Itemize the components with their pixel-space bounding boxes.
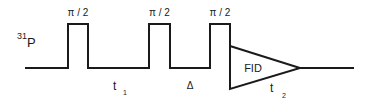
channel-label-nucleus: P xyxy=(27,35,36,50)
delay-t1-label: t xyxy=(113,79,117,93)
pulse-2-label: π / 2 xyxy=(149,7,170,18)
pulse-train-line xyxy=(25,24,230,89)
fid-triangle xyxy=(230,46,300,89)
acquisition-t2-label: t xyxy=(270,81,274,95)
delay-delta-label: Δ xyxy=(187,80,194,91)
acquisition-t2-subscript: 2 xyxy=(282,92,286,99)
pulse-3-label: π / 2 xyxy=(210,7,231,18)
channel-label-superscript: 31 xyxy=(17,31,27,41)
fid-label: FID xyxy=(244,62,262,74)
pulse-1-label: π / 2 xyxy=(68,7,89,18)
delay-t1-subscript: 1 xyxy=(123,89,127,96)
pulse-sequence-diagram: 31 P π / 2 π / 2 π / 2 t 1 Δ FID t 2 xyxy=(0,0,374,105)
